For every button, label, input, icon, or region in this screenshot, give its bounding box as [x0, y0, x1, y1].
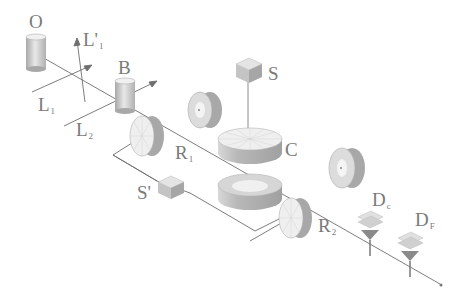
- diagram-canvas: [0, 0, 468, 291]
- C-disk: [218, 128, 282, 164]
- label-Dc: Dc: [372, 190, 391, 211]
- right-wheel: [329, 148, 365, 188]
- label-R1: R1: [175, 143, 193, 164]
- beam-end-dot: [440, 284, 443, 287]
- label-S: S: [268, 64, 279, 83]
- optical-setup-diagram: O L'1 B L1 L2 S C R1 S' R2 Dc DF: [0, 0, 468, 291]
- DF-detector: [398, 232, 423, 277]
- R2-wheel: [279, 198, 312, 238]
- label-L1prime: L'1: [83, 30, 104, 51]
- lower-ring: [218, 174, 282, 210]
- label-DF: DF: [415, 210, 435, 231]
- label-O: O: [29, 12, 43, 31]
- R1-wheel: [130, 116, 164, 156]
- main-beam: [42, 57, 440, 284]
- main-beam-line: [42, 57, 440, 284]
- B-cylinder: [115, 78, 135, 114]
- upper-wheel: [188, 92, 222, 128]
- label-Sprime: S': [137, 183, 151, 202]
- label-C: C: [285, 140, 298, 159]
- O-cylinder: [26, 34, 46, 72]
- label-L2: L2: [76, 120, 93, 141]
- Sprime-cube: [158, 176, 184, 199]
- S-cube: [236, 58, 262, 83]
- label-B: B: [118, 58, 131, 77]
- label-L1: L1: [38, 95, 55, 116]
- label-R2: R2: [318, 216, 336, 237]
